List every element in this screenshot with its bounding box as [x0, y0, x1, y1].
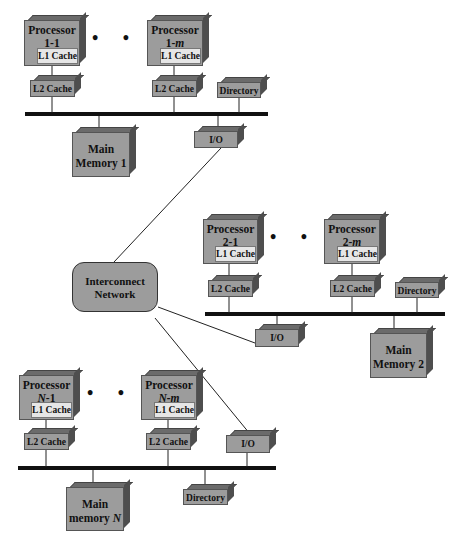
memory-label: Main — [371, 343, 426, 357]
memory-label: Main — [73, 142, 129, 156]
main-memory-1: Main Memory 1 — [72, 132, 130, 177]
memory-id: Memory 1 — [73, 156, 129, 170]
ccnuma-diagram: Processor 1-1 L1 Cache • • • Processor 1… — [0, 0, 464, 542]
directory-2: Directory — [395, 282, 439, 298]
bus-n — [18, 466, 276, 470]
l1-cache: L1 Cache — [337, 246, 378, 262]
directory-n: Directory — [183, 489, 228, 505]
processor-n-m: Processor N-m L1 Cache — [141, 375, 197, 420]
processor-n-1: Processor N-1 L1 Cache — [19, 375, 74, 420]
bus-1 — [25, 112, 268, 116]
processor-label: Processor — [148, 24, 202, 37]
processor-label: Processor — [20, 379, 73, 392]
l1-cache: L1 Cache — [37, 48, 78, 64]
l1-cache: L1 Cache — [154, 402, 195, 418]
memory-id: memory N — [67, 511, 123, 525]
l2-cache-1-1: L2 Cache — [30, 80, 75, 97]
network-label-1: Interconnect — [73, 275, 157, 288]
processor-1-1: Processor 1-1 L1 Cache — [24, 20, 80, 66]
l2-cache-n-m: L2 Cache — [146, 433, 191, 450]
main-memory-n: Main memory N — [66, 487, 124, 531]
l2-cache-2-1: L2 Cache — [208, 280, 253, 297]
io-2: I/O — [255, 329, 299, 347]
io-n: I/O — [226, 435, 270, 453]
processor-label: Processor — [325, 223, 379, 236]
io-1: I/O — [194, 131, 238, 148]
memory-label: Main — [67, 497, 123, 511]
l2-cache-n-1: L2 Cache — [24, 433, 69, 450]
memory-id: Memory 2 — [371, 357, 426, 371]
processor-label: Processor — [204, 223, 257, 236]
l1-cache: L1 Cache — [215, 246, 256, 262]
l1-cache: L1 Cache — [160, 48, 201, 64]
l2-cache-1-m: L2 Cache — [152, 80, 197, 97]
l2-cache-2-m: L2 Cache — [330, 280, 375, 297]
directory-1: Directory — [217, 82, 261, 98]
processor-1-m: Processor 1-m L1 Cache — [147, 20, 203, 66]
l1-cache: L1 Cache — [31, 402, 72, 418]
interconnect-network: Interconnect Network — [72, 262, 158, 312]
network-label-2: Network — [73, 288, 157, 301]
processor-2-1: Processor 2-1 L1 Cache — [203, 219, 258, 264]
bus-2 — [205, 312, 445, 316]
main-memory-2: Main Memory 2 — [370, 333, 427, 378]
processor-label: Processor — [142, 379, 196, 392]
processor-label: Processor — [25, 24, 79, 37]
processor-2-m: Processor 2-m L1 Cache — [324, 219, 380, 264]
